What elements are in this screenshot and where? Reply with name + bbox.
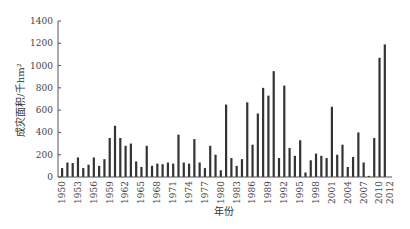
bar	[156, 164, 158, 177]
bar	[363, 163, 365, 177]
bar	[114, 126, 116, 177]
x-tick-label: 1965	[136, 181, 146, 204]
bar	[66, 163, 68, 177]
bars	[61, 44, 386, 177]
bar	[124, 146, 126, 177]
bar	[236, 166, 238, 177]
bar	[146, 146, 148, 177]
bar	[262, 88, 264, 177]
x-tick-label: 2007	[359, 181, 369, 204]
x-axis: 1950195319561959196219651968197119741977…	[57, 177, 395, 204]
bar	[209, 146, 211, 177]
x-tick-label: 2004	[343, 181, 353, 204]
bar	[341, 145, 343, 177]
y-tick-label: 800	[36, 83, 53, 93]
bar-chart: 0200400600800100012001400 19501953195619…	[0, 0, 410, 229]
bar	[130, 144, 132, 177]
bar	[246, 102, 248, 177]
bar	[347, 167, 349, 177]
bar	[299, 140, 301, 177]
x-tick-label: 1974	[184, 181, 194, 204]
x-tick-label: 1977	[200, 181, 210, 204]
bar	[373, 138, 375, 177]
bar	[167, 163, 169, 177]
y-axis: 0200400600800100012001400	[30, 16, 61, 182]
y-tick-label: 200	[36, 150, 53, 160]
bar	[251, 145, 253, 177]
bar	[267, 96, 269, 177]
x-tick-label: 1986	[247, 181, 257, 204]
bar	[357, 132, 359, 177]
x-tick-label: 1983	[232, 181, 242, 204]
bar	[183, 163, 185, 177]
bar	[103, 159, 105, 177]
bar	[241, 159, 243, 177]
x-axis-label: 年份	[214, 205, 234, 217]
bar	[304, 173, 306, 177]
bar	[87, 165, 89, 177]
y-tick-label: 600	[36, 105, 53, 115]
bar	[320, 156, 322, 177]
bar	[93, 158, 95, 178]
y-tick-label: 1200	[30, 38, 53, 48]
bar	[378, 58, 380, 177]
bar	[119, 138, 121, 177]
x-tick-label: 1971	[168, 181, 178, 204]
bar	[77, 158, 79, 178]
bar	[331, 107, 333, 177]
bar	[109, 138, 111, 177]
bar	[288, 148, 290, 177]
bar	[283, 86, 285, 177]
bar	[326, 158, 328, 177]
y-axis-label: 成灾面积/千hm²	[14, 63, 26, 136]
x-tick-label: 1968	[152, 181, 162, 204]
bar	[384, 44, 386, 177]
bar	[257, 113, 259, 177]
bar	[61, 168, 63, 177]
x-tick-label: 1989	[263, 181, 273, 204]
bar	[220, 170, 222, 177]
x-tick-label: 1959	[105, 181, 115, 204]
bar	[151, 166, 153, 177]
x-tick-label: 1980	[216, 181, 226, 204]
x-tick-label: 2010	[374, 181, 384, 204]
bar	[278, 158, 280, 177]
bar	[336, 155, 338, 177]
bar	[214, 155, 216, 177]
bar	[193, 139, 195, 177]
x-tick-label: 2012	[385, 181, 395, 204]
bar	[72, 163, 74, 177]
bar	[177, 135, 179, 177]
x-tick-label: 1992	[279, 181, 289, 204]
bar	[172, 164, 174, 177]
x-tick-label: 1950	[57, 181, 67, 204]
bar	[82, 168, 84, 177]
y-tick-label: 1400	[30, 16, 53, 26]
bar	[294, 156, 296, 177]
bar	[225, 105, 227, 177]
x-tick-label: 1956	[89, 181, 99, 204]
y-tick-label: 1000	[30, 61, 53, 71]
x-tick-label: 1953	[73, 181, 83, 204]
bar	[273, 71, 275, 177]
bar	[352, 157, 354, 177]
x-tick-label: 1962	[120, 181, 130, 204]
x-tick-label: 1995	[295, 181, 305, 204]
bar	[135, 161, 137, 177]
x-tick-label: 2001	[327, 181, 337, 204]
bar	[162, 164, 164, 177]
bar	[204, 168, 206, 177]
bar	[98, 166, 100, 177]
bar	[199, 163, 201, 177]
bar	[188, 164, 190, 177]
bar	[315, 154, 317, 177]
y-tick-label: 0	[47, 172, 53, 182]
bar	[230, 158, 232, 177]
y-tick-label: 400	[36, 127, 53, 137]
bar	[140, 167, 142, 177]
x-tick-label: 1998	[311, 181, 321, 204]
bar	[310, 160, 312, 177]
